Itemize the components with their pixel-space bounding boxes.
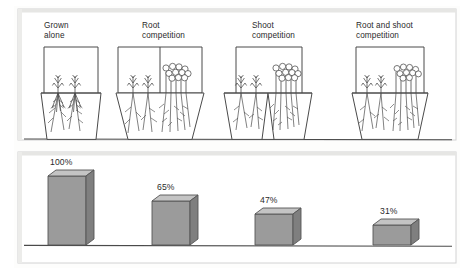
- treatment-label-grown-alone-line1: Grown: [44, 21, 69, 30]
- pot-root-competition: [116, 93, 204, 139]
- treatment-label-root-competition-line2: competition: [142, 31, 185, 40]
- bar-face-4: [373, 225, 411, 245]
- plant-competition-figure: Grown alone Root competition Shoot compe…: [0, 0, 472, 275]
- bar-face-1: [48, 176, 86, 245]
- treatment-label-shoot-competition-line1: Shoot: [252, 21, 275, 30]
- treatment-label-grown-alone-line2: alone: [44, 31, 65, 40]
- bar-value-label-1: 100%: [50, 157, 73, 167]
- bottom-panel: 100% 65% 47% 31%: [18, 152, 456, 263]
- bottom-panel-shadow-left: [18, 152, 22, 263]
- bar-side-2: [190, 195, 198, 245]
- bar-side-3: [293, 208, 301, 245]
- bar-face-2: [152, 201, 190, 245]
- bar-value-label-4: 31%: [380, 206, 398, 216]
- treatment-label-shoot-competition-line2: competition: [252, 31, 295, 40]
- treatment-label-root-shoot-competition-line2: competition: [356, 31, 399, 40]
- bar-value-label-3: 47%: [260, 195, 278, 205]
- bar-value-label-2: 65%: [157, 182, 175, 192]
- treatment-label-root-shoot-competition-line1: Root and shoot: [356, 21, 414, 30]
- bar-side-1: [86, 170, 94, 245]
- bottom-panel-shadow-top: [18, 152, 456, 156]
- top-panel-shadow-left: [18, 9, 22, 140]
- treatment-label-root-competition-line1: Root: [142, 21, 160, 30]
- top-panel-shadow-top: [18, 9, 456, 13]
- figure-page: Grown alone Root competition Shoot compe…: [0, 0, 472, 275]
- pot-right-shoot-competition: [268, 93, 312, 139]
- pot-left-shoot-competition: [224, 93, 268, 139]
- bar-face-3: [255, 214, 293, 245]
